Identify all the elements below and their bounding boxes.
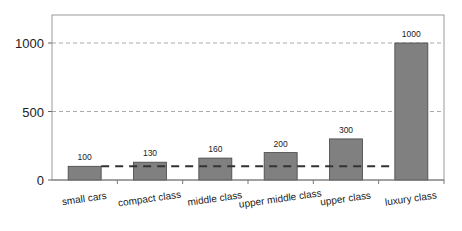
bar [134,162,167,180]
y-axis: 05001000 [15,36,52,188]
bar [68,166,101,180]
data-label: 130 [143,148,157,158]
x-tick-label: middle class [187,189,243,208]
x-tick-label: upper class [319,190,371,208]
x-axis: small carscompact classmiddle classupper… [52,180,444,210]
bar [330,139,363,180]
data-label: 300 [339,125,353,135]
y-tick-label: 500 [22,105,44,120]
y-tick-label: 0 [37,173,44,188]
data-label: 1000 [402,29,421,39]
bar [264,153,297,180]
y-tick-label: 1000 [15,36,44,51]
data-label: 100 [78,152,92,162]
gridlines [52,43,444,112]
x-tick-label: upper middle class [238,187,322,209]
data-label: 160 [208,144,222,154]
bars: 1001301602003001000 [68,29,428,180]
data-label: 200 [274,139,288,149]
bar [395,43,428,180]
bar [199,158,232,180]
bar-chart: 05001000 1001301602003001000 small carsc… [0,0,462,231]
plot-area-frame [52,15,444,180]
x-tick-label: compact class [117,189,181,209]
x-tick-label: luxury class [384,189,437,207]
x-tick-label: small cars [61,190,107,207]
